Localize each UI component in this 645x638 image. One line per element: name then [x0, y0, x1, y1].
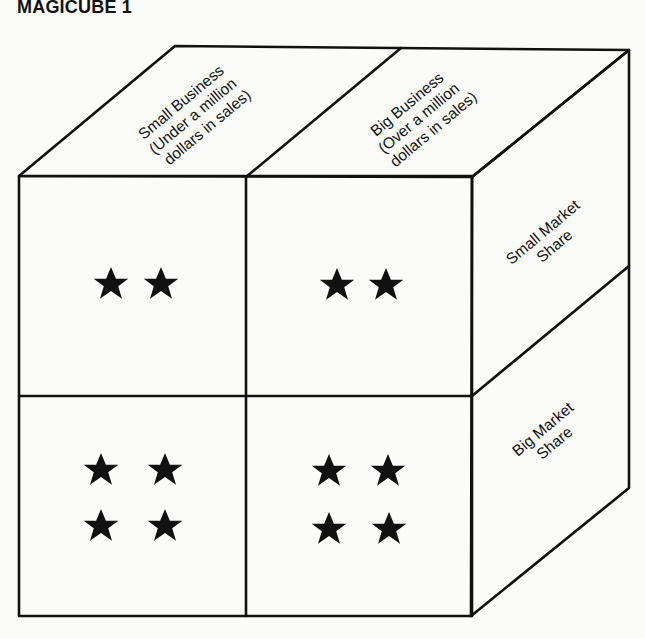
star-icon [148, 509, 183, 541]
cell-small-business-small-share [94, 267, 179, 299]
star-icon [312, 454, 347, 486]
label-small-market-share: Small Market Share [503, 196, 595, 281]
star-icon [312, 512, 347, 544]
cell-big-business-small-share [320, 268, 404, 300]
label-big-market-share: Big Market Share [509, 398, 589, 473]
cube-top-face [19, 46, 629, 177]
star-icon [144, 267, 179, 299]
label-big-business: Big Business (Over a million dollars in … [363, 60, 480, 170]
star-icon [148, 453, 183, 485]
label-small-business: Small Business (Under a million dollars … [134, 58, 254, 171]
cell-big-business-big-share [312, 454, 407, 544]
side-face-divider [472, 266, 629, 396]
cube-side-face [471, 50, 629, 616]
star-icon [371, 454, 406, 486]
star-icon [84, 509, 119, 541]
star-icon [320, 268, 355, 300]
star-icon [84, 453, 119, 485]
cube-front-face [19, 176, 472, 616]
top-face-divider [246, 48, 401, 177]
cell-small-business-big-share [84, 453, 183, 541]
star-icon [94, 267, 129, 299]
star-icon [372, 512, 407, 544]
magicube-diagram: Small Business (Under a million dollars … [0, 0, 645, 638]
star-icon [369, 268, 404, 300]
